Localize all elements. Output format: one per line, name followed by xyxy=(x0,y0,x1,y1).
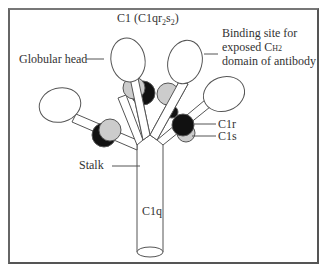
c1-complex-diagram: C1 (C1qr2s2) xyxy=(0,0,331,271)
label-globular-head: Globular head xyxy=(19,52,87,66)
label-c1q: C1q xyxy=(142,204,162,218)
label-c1s: C1s xyxy=(218,129,237,143)
label-binding-site-3: domain of antibody xyxy=(222,54,316,68)
globular-head-2 xyxy=(163,36,207,87)
globular-head-1 xyxy=(107,35,148,84)
label-binding-site-2: exposed CH2 xyxy=(222,40,282,54)
diagram-title: C1 (C1qr2s2) xyxy=(117,11,179,27)
stalk xyxy=(137,145,163,257)
c1r-c1s-complex-right xyxy=(172,114,195,142)
label-stalk: Stalk xyxy=(79,158,104,172)
label-binding-site-1: Binding site for xyxy=(222,26,297,40)
